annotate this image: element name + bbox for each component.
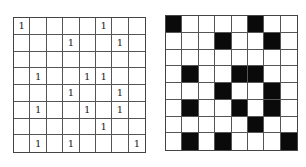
grid-cell: [129, 119, 145, 136]
grid-cell: [129, 85, 145, 102]
grid-cell: [129, 35, 145, 52]
empty-cell: [248, 33, 264, 50]
empty-cell: [215, 66, 231, 83]
empty-cell: [232, 16, 248, 33]
empty-cell: [281, 100, 297, 117]
empty-cell: [264, 16, 280, 33]
number-grid: 1111111111111111: [13, 17, 146, 153]
grid-cell: [14, 119, 30, 136]
empty-cell: [248, 133, 264, 150]
filled-cell: [182, 133, 198, 150]
grid-cell: [96, 102, 112, 119]
grid-cell: [30, 52, 46, 69]
grid-cell: [112, 135, 128, 152]
empty-cell: [281, 66, 297, 83]
grid-cell: [80, 18, 96, 35]
empty-cell: [166, 83, 182, 100]
empty-cell: [232, 50, 248, 67]
grid-cell: 1: [14, 18, 30, 35]
grid-cell: 1: [129, 135, 145, 152]
grid-cell: 1: [112, 85, 128, 102]
empty-cell: [281, 117, 297, 134]
empty-cell: [182, 16, 198, 33]
grid-cell: [80, 119, 96, 136]
grid-cell: [63, 18, 79, 35]
grid-cell: [14, 85, 30, 102]
empty-cell: [264, 50, 280, 67]
grid-cell: [30, 35, 46, 52]
grid-cell: 1: [80, 68, 96, 85]
grid-cell: [14, 135, 30, 152]
filled-cell: [248, 66, 264, 83]
empty-cell: [199, 16, 215, 33]
empty-cell: [264, 133, 280, 150]
empty-cell: [281, 33, 297, 50]
filled-cell: [281, 133, 297, 150]
empty-cell: [199, 50, 215, 67]
filled-cell: [166, 16, 182, 33]
empty-cell: [182, 83, 198, 100]
empty-cell: [199, 117, 215, 134]
filled-cell-grid: [165, 15, 298, 151]
filled-cell: [215, 133, 231, 150]
grid-cell: [129, 52, 145, 69]
grid-cell: [47, 52, 63, 69]
grid-cell: [129, 68, 145, 85]
empty-cell: [232, 83, 248, 100]
empty-cell: [232, 33, 248, 50]
grid-cell: [80, 135, 96, 152]
empty-cell: [199, 100, 215, 117]
grid-cell: [47, 119, 63, 136]
grid-cell: 1: [80, 102, 96, 119]
grid-cell: 1: [96, 119, 112, 136]
grid-cell: 1: [112, 102, 128, 119]
empty-cell: [199, 83, 215, 100]
grid-cell: [47, 135, 63, 152]
grid-cell: [14, 35, 30, 52]
filled-cell: [264, 33, 280, 50]
empty-cell: [248, 100, 264, 117]
empty-cell: [166, 50, 182, 67]
empty-cell: [182, 33, 198, 50]
grid-cell: [47, 18, 63, 35]
grid-cell: 1: [96, 68, 112, 85]
filled-cell: [232, 66, 248, 83]
filled-cell: [182, 100, 198, 117]
empty-cell: [232, 133, 248, 150]
grid-cell: [80, 52, 96, 69]
grid-cell: [47, 68, 63, 85]
empty-cell: [281, 83, 297, 100]
empty-cell: [215, 100, 231, 117]
grid-cell: [63, 52, 79, 69]
grid-cell: [63, 119, 79, 136]
filled-cell: [215, 83, 231, 100]
grid-cell: [96, 35, 112, 52]
grid-cell: [112, 119, 128, 136]
grid-cell: 1: [112, 35, 128, 52]
grid-cell: [30, 119, 46, 136]
empty-cell: [199, 33, 215, 50]
filled-cell: [264, 83, 280, 100]
empty-cell: [166, 100, 182, 117]
filled-cell: [248, 117, 264, 134]
grid-cell: [30, 18, 46, 35]
grid-cell: [14, 68, 30, 85]
grid-cell: [112, 18, 128, 35]
empty-cell: [264, 117, 280, 134]
empty-cell: [166, 66, 182, 83]
empty-cell: [248, 83, 264, 100]
grid-cell: 1: [30, 102, 46, 119]
empty-cell: [215, 50, 231, 67]
grid-cell: [96, 52, 112, 69]
grid-cell: [80, 85, 96, 102]
filled-cell: [264, 100, 280, 117]
empty-cell: [199, 66, 215, 83]
grid-cell: [14, 52, 30, 69]
grid-cell: 1: [96, 18, 112, 35]
empty-cell: [248, 50, 264, 67]
empty-cell: [182, 50, 198, 67]
grid-cell: [80, 35, 96, 52]
grid-cell: [96, 135, 112, 152]
grid-cell: [14, 102, 30, 119]
empty-cell: [166, 133, 182, 150]
